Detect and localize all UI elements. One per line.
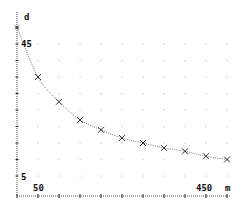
grid-dot [80, 126, 81, 127]
grid-dot [206, 143, 207, 144]
grid-dot [122, 93, 123, 94]
grid-dot [59, 176, 60, 177]
grid-dot [59, 93, 60, 94]
grid-dot [185, 60, 186, 61]
grid-dot [206, 44, 207, 45]
grid-dot [185, 110, 186, 111]
grid-dot [59, 44, 60, 45]
grid-dot [122, 77, 123, 78]
grid-dot [164, 77, 165, 78]
grid-dot [101, 44, 102, 45]
grid-dot [80, 159, 81, 160]
grid-dot [59, 159, 60, 160]
grid-dot [164, 176, 165, 177]
grid-dot [38, 126, 39, 127]
grid-dot [122, 110, 123, 111]
grid-dot [38, 176, 39, 177]
grid-dot [227, 176, 228, 177]
data-point-marker [203, 153, 209, 159]
grid-dot [38, 143, 39, 144]
grid-dot [101, 143, 102, 144]
grid-dot [143, 159, 144, 160]
grid-dot [143, 176, 144, 177]
grid-dot [122, 126, 123, 127]
grid-dot [227, 44, 228, 45]
grid-dot [59, 143, 60, 144]
grid-dot [122, 60, 123, 61]
data-point-marker [56, 99, 62, 105]
grid-dot [80, 77, 81, 78]
grid-dot [122, 44, 123, 45]
grid-dot [101, 176, 102, 177]
grid-dot [143, 126, 144, 127]
grid-dot [143, 44, 144, 45]
axes [16, 12, 231, 198]
grid-dot [80, 93, 81, 94]
grid-dot [185, 44, 186, 45]
grid-dot [80, 176, 81, 177]
grid-dot [206, 60, 207, 61]
grid-dot [143, 93, 144, 94]
data-point-marker [98, 127, 104, 133]
y-tick-label-45: 45 [21, 39, 32, 49]
grid-dot [122, 159, 123, 160]
grid-dot [143, 60, 144, 61]
grid-dot [38, 159, 39, 160]
grid-dot [164, 44, 165, 45]
data-point-marker [119, 135, 125, 141]
grid-dot [185, 176, 186, 177]
grid-dot [227, 143, 228, 144]
grid-dot [59, 77, 60, 78]
data-point-marker [77, 117, 83, 123]
grid-dot [80, 44, 81, 45]
grid-dot [80, 60, 81, 61]
y-tick-label-5: 5 [21, 172, 26, 182]
grid-dot [38, 93, 39, 94]
x-axis-label: m [225, 183, 231, 193]
grid-dot [206, 110, 207, 111]
grid-dot [164, 126, 165, 127]
grid-dot [143, 110, 144, 111]
grid-dot [206, 176, 207, 177]
grid [38, 44, 228, 177]
grid-dot [227, 93, 228, 94]
grid-dot [101, 93, 102, 94]
grid-dot [185, 143, 186, 144]
grid-dot [38, 44, 39, 45]
grid-dot [164, 159, 165, 160]
grid-dot [101, 60, 102, 61]
grid-dot [164, 143, 165, 144]
grid-dot [164, 60, 165, 61]
grid-dot [185, 159, 186, 160]
grid-dot [227, 110, 228, 111]
grid-dot [206, 126, 207, 127]
grid-dot [122, 176, 123, 177]
grid-dot [227, 77, 228, 78]
grid-dot [227, 126, 228, 127]
trend-curve [17, 28, 230, 162]
grid-dot [101, 159, 102, 160]
chart: d 45 5 50 450 m [0, 0, 246, 209]
x-tick-label-50: 50 [33, 183, 44, 193]
grid-dot [38, 60, 39, 61]
grid-dot [206, 93, 207, 94]
grid-dot [59, 60, 60, 61]
grid-dot [164, 93, 165, 94]
grid-dot [185, 77, 186, 78]
grid-dot [59, 126, 60, 127]
grid-dot [101, 110, 102, 111]
grid-dot [101, 126, 102, 127]
grid-dot [80, 110, 81, 111]
grid-dot [206, 159, 207, 160]
data-point-marker [140, 140, 146, 146]
data-point-marker [35, 74, 41, 80]
y-axis-ticks [16, 28, 19, 177]
grid-dot [164, 110, 165, 111]
grid-dot [38, 110, 39, 111]
chart-canvas: d 45 5 50 450 m [0, 0, 246, 209]
grid-dot [101, 77, 102, 78]
grid-dot [122, 143, 123, 144]
y-axis-label: d [24, 12, 29, 22]
grid-dot [206, 77, 207, 78]
grid-dot [185, 93, 186, 94]
